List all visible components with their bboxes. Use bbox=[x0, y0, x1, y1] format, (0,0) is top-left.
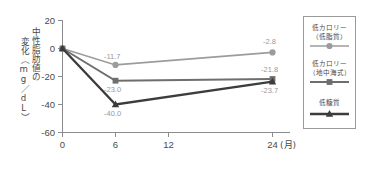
series-2-line bbox=[63, 49, 273, 81]
series-3-value-label-month24: -23.7 bbox=[261, 86, 278, 95]
axis-group: 20 0 -20 -40 -60 0 6 12 24 (月) bbox=[41, 15, 296, 150]
series-low-carb: -40.0 -23.7 bbox=[59, 45, 278, 118]
legend-item-2-square-icon bbox=[327, 79, 333, 85]
legend-item-1-circle-icon bbox=[326, 43, 332, 49]
x-axis-unit-label: (月) bbox=[280, 140, 296, 150]
y-tick-label-0: 0 bbox=[50, 43, 55, 54]
series-1-line bbox=[63, 49, 273, 65]
series-1-marker-month24 bbox=[269, 49, 275, 55]
y-tick-label-20: 20 bbox=[44, 15, 55, 26]
chart-legend: 低カロリー （低脂質） 低カロリー （地中海式） 低糖質 bbox=[304, 17, 356, 129]
series-2-value-label-month6: -23.0 bbox=[104, 85, 121, 94]
legend-item-2-label-line1: 低カロリー bbox=[312, 59, 347, 68]
trigliceride-change-line-chart: 20 0 -20 -40 -60 0 6 12 24 (月) -11.7 -2.… bbox=[0, 0, 366, 170]
series-2-marker-month6 bbox=[113, 78, 119, 84]
x-tick-label-0: 0 bbox=[60, 139, 65, 150]
series-2-value-label-month24: -21.8 bbox=[261, 65, 278, 74]
y-tick-label-minus60: -60 bbox=[41, 127, 55, 138]
x-tick-label-24: 24 bbox=[267, 139, 278, 150]
legend-item-2-label-line2: （地中海式） bbox=[309, 68, 351, 77]
legend-item-1-label-line1: 低カロリー bbox=[312, 23, 347, 32]
chart-canvas: 20 0 -20 -40 -60 0 6 12 24 (月) -11.7 -2.… bbox=[0, 0, 366, 170]
series-1-marker-month6 bbox=[112, 62, 118, 68]
series-3-value-label-month6: -40.0 bbox=[104, 109, 121, 118]
legend-item-3-label-line1: 低糖質 bbox=[319, 98, 340, 107]
x-tick-label-6: 6 bbox=[113, 139, 118, 150]
x-tick-label-12: 12 bbox=[163, 139, 174, 150]
series-low-calorie-low-fat: -11.7 -2.8 bbox=[59, 37, 276, 68]
series-1-value-label-month24: -2.8 bbox=[263, 37, 276, 46]
legend-item-1-label-line2: （低脂質） bbox=[312, 32, 347, 41]
series-1-value-label-month6: -11.7 bbox=[104, 52, 121, 61]
y-tick-label-minus20: -20 bbox=[41, 71, 55, 82]
y-tick-label-minus40: -40 bbox=[41, 99, 55, 110]
series-3-line bbox=[63, 49, 273, 105]
